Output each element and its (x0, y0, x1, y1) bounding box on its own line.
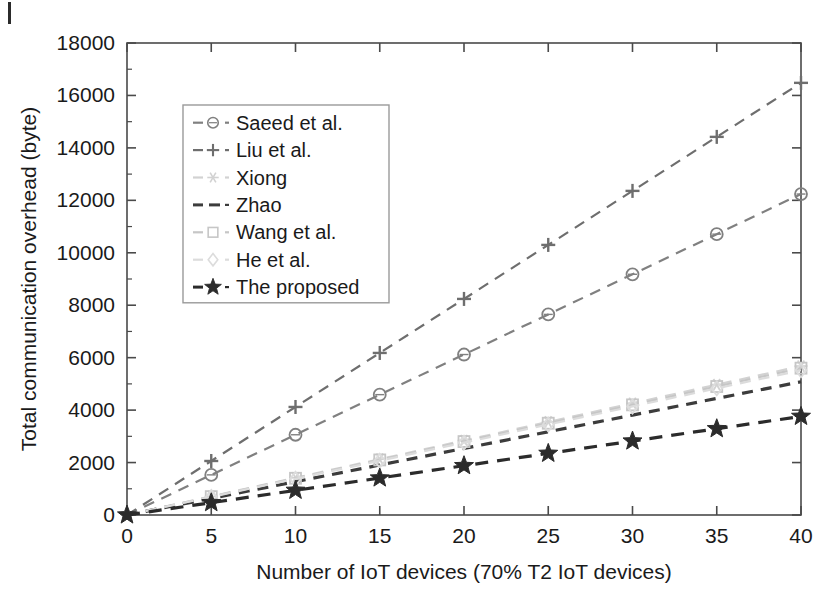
x-axis-tick-label: 15 (368, 524, 391, 547)
y-axis-tick-label: 18000 (57, 31, 115, 54)
scan-artifact-icon (8, 2, 11, 24)
x-axis-tick-label: 10 (284, 524, 307, 547)
y-axis-tick-label: 6000 (68, 346, 115, 369)
y-axis-tick-label: 12000 (57, 188, 115, 211)
y-axis-tick-label: 0 (103, 503, 115, 526)
legend-item-label: Saeed et al. (236, 112, 343, 134)
x-axis-tick-label: 25 (537, 524, 560, 547)
legend-item-label: The proposed (236, 276, 359, 298)
legend-item-label: Xiong (236, 167, 287, 189)
x-axis-tick-label: 40 (789, 524, 812, 547)
x-axis-tick-label: 0 (121, 524, 133, 547)
x-axis-tick-label: 30 (621, 524, 644, 547)
y-axis-title: Total communication overhead (byte) (17, 107, 40, 451)
y-axis-tick-label: 8000 (68, 293, 115, 316)
y-axis-tick-label: 16000 (57, 83, 115, 106)
legend-item-label: Zhao (236, 194, 282, 216)
figure-container: 0200040006000800010000120001400016000180… (0, 0, 834, 610)
legend-item-label: He et al. (236, 249, 310, 271)
y-axis-tick-label: 14000 (57, 136, 115, 159)
legend-item-label: Liu et al. (236, 139, 312, 161)
x-axis-title: Number of IoT devices (70% T2 IoT device… (256, 560, 672, 583)
chart-legend: Saeed et al.Liu et al.XiongZhaoWang et a… (183, 105, 389, 303)
x-axis-tick-label: 5 (205, 524, 217, 547)
y-axis-tick-label: 4000 (68, 398, 115, 421)
legend-item-label: Wang et al. (236, 221, 336, 243)
y-axis-tick-label: 2000 (68, 451, 115, 474)
y-axis-tick-label: 10000 (57, 241, 115, 264)
x-axis-tick-label: 20 (452, 524, 475, 547)
line-chart: 0200040006000800010000120001400016000180… (0, 0, 834, 610)
x-axis-tick-label: 35 (705, 524, 728, 547)
